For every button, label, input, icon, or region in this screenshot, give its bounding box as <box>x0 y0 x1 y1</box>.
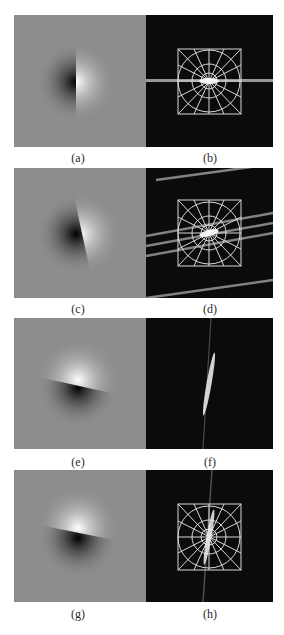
caption-g: (g) <box>58 607 98 622</box>
panel-a-spatial-image <box>14 15 146 147</box>
caption-b: (b) <box>190 151 230 166</box>
caption-a: (a) <box>58 151 98 166</box>
panel-b-spectrum-image <box>146 15 273 147</box>
panel-g-spatial-image <box>14 470 146 602</box>
caption-d: (d) <box>190 302 230 317</box>
panel-e-spatial-image <box>14 318 146 449</box>
caption-h: (h) <box>190 607 230 622</box>
caption-c: (c) <box>58 302 98 317</box>
panel-h-spectrum-image <box>146 470 273 602</box>
panel-f-spectrum-image <box>146 318 273 449</box>
panel-d-spectrum-image <box>146 168 273 298</box>
panel-c-spatial-image <box>14 168 146 298</box>
caption-f: (f) <box>190 455 230 470</box>
caption-e: (e) <box>58 455 98 470</box>
